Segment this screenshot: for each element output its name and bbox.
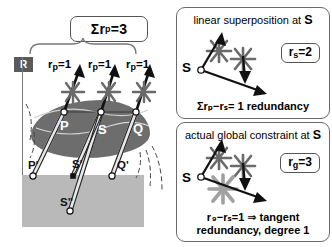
- contour-1: [34, 109, 148, 118]
- label-P: P: [60, 118, 69, 133]
- panel-linear-superposition: linear superposition at S rs=2 S Σrₚ−rₛ=: [176, 7, 330, 119]
- node-Q-prime: [109, 173, 115, 179]
- panel-bottom-origin-node: [198, 174, 204, 180]
- label-Q-prime: Q': [117, 159, 129, 171]
- left-panel: Σrp=3 R rp=1 rp=1 rp=1: [0, 0, 172, 247]
- panel-global-constraint: actual global constraint at S rg=3 S: [176, 122, 330, 242]
- panel-top-footer: Σrₚ−rₛ= 1 redundancy: [177, 100, 329, 113]
- node-P-prime: [30, 173, 36, 179]
- node-S-double-prime: [67, 208, 73, 214]
- contour-dash-right-2: [152, 146, 162, 190]
- panel-top-arrow-shaft-2: [201, 70, 263, 92]
- arrow-head-S: [109, 64, 120, 78]
- panel-bottom-footer-line1: r ₉−rₛ=1 ⇒ tangent: [177, 211, 329, 224]
- panel-top-origin-node: [198, 67, 204, 73]
- node-P: [61, 109, 67, 115]
- node-S: [98, 109, 104, 115]
- panel-bottom-arrow-head-3: [239, 178, 251, 191]
- panel-bottom-arrow-head-2: [253, 192, 267, 203]
- contour-dash-right-3: [136, 152, 141, 178]
- panel-top-arrow-head-2: [253, 85, 267, 96]
- label-Q: Q: [133, 121, 143, 136]
- figure-canvas: Σrp=3 R rp=1 rp=1 rp=1: [0, 0, 332, 247]
- node-S-prime: [70, 173, 76, 179]
- arrow-head-Q: [144, 64, 155, 78]
- burst-P: [62, 82, 84, 102]
- burst-S: [98, 82, 120, 102]
- contour-dash-right-1: [146, 150, 151, 186]
- panel-top-arrow-head-3: [239, 71, 251, 84]
- label-S: S: [98, 122, 107, 137]
- panel-bottom-footer-line2: redundancy, degree 1: [177, 224, 329, 237]
- label-S-prime: S': [72, 158, 82, 170]
- node-Q: [133, 109, 139, 115]
- burst-Q: [133, 82, 155, 102]
- label-P-prime: P': [28, 159, 38, 171]
- contours-svg: [0, 0, 172, 247]
- panel-bottom-footer: r ₉−rₛ=1 ⇒ tangent redundancy, degree 1: [177, 211, 329, 237]
- label-S-double-prime: S": [60, 196, 73, 208]
- arrow-head-P: [74, 64, 85, 78]
- contour-dash-left-1: [26, 104, 31, 140]
